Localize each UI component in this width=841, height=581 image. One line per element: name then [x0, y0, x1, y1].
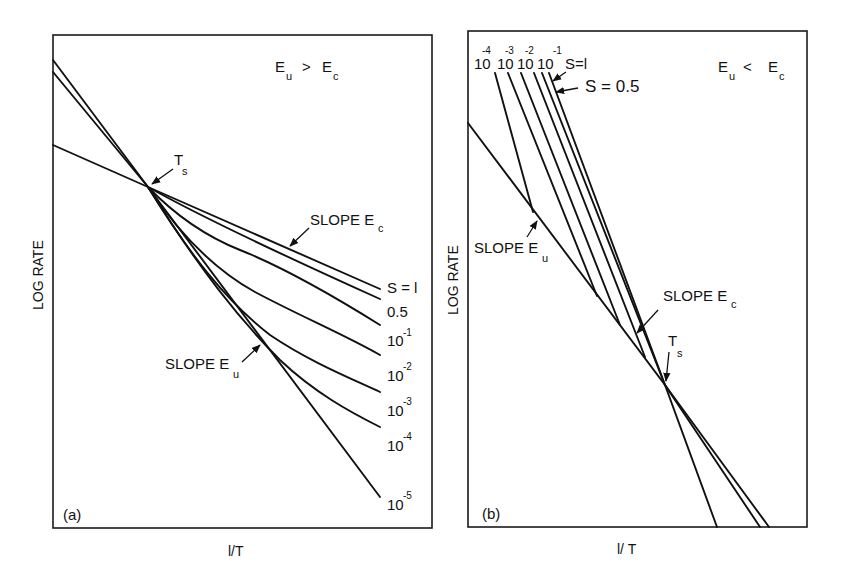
svg-text:-3: -3	[505, 45, 514, 56]
svg-text:10: 10	[474, 55, 491, 72]
svg-text:<: <	[743, 58, 752, 75]
panel-a-curve-labels: S = l 0.5 10 -1 10 -2 10 -3 10 -4 10 -5	[387, 279, 417, 513]
svg-text:u: u	[542, 252, 548, 264]
svg-text:E: E	[322, 58, 332, 75]
svg-text:SLOPE E: SLOPE E	[474, 239, 538, 256]
svg-text:E: E	[718, 58, 728, 75]
svg-text:u: u	[233, 368, 239, 380]
arrow-icon	[152, 169, 173, 184]
svg-text:S = l: S = l	[387, 279, 417, 296]
svg-text:-4: -4	[403, 431, 412, 442]
panel-b-line-s1e-1	[534, 73, 645, 357]
svg-text:10: 10	[497, 55, 514, 72]
panel-a-line-s1e-5	[148, 187, 380, 497]
panel-b-xlabel: l/ T	[617, 541, 637, 557]
svg-text:10: 10	[537, 55, 554, 72]
svg-text:SLOPE E: SLOPE E	[165, 355, 229, 372]
arrow-icon	[290, 228, 309, 246]
panel-b-ts-annotation: T s	[666, 332, 683, 381]
arrow-icon	[242, 345, 260, 362]
svg-text:-1: -1	[553, 45, 562, 56]
panel-a-ts-annotation: T s	[152, 151, 188, 184]
svg-text:SLOPE E: SLOPE E	[310, 211, 374, 228]
panel-a-line-upper-1	[53, 60, 148, 187]
panel-a-ylabel: LOG RATE	[30, 240, 46, 310]
svg-text:s: s	[677, 347, 683, 359]
panel-b-line-s1e-3	[508, 73, 597, 296]
svg-text:10: 10	[387, 332, 404, 349]
panel-b-frame	[468, 31, 807, 527]
panel-b-line-s1	[549, 73, 665, 385]
svg-text:10: 10	[387, 367, 404, 384]
svg-text:T: T	[668, 332, 677, 349]
panel-b-slope-ec: SLOPE E c	[637, 287, 737, 333]
arrow-icon	[527, 221, 537, 237]
svg-text:u: u	[286, 70, 292, 82]
svg-text:S = 0.5: S = 0.5	[585, 77, 639, 96]
panel-a-condition: E u > E c	[275, 58, 339, 82]
panel-b-line-s1-lower	[665, 385, 769, 527]
panel-a-xlabel: l/T	[228, 543, 244, 559]
svg-text:c: c	[779, 70, 785, 82]
svg-text:c: c	[731, 298, 737, 310]
svg-text:>: >	[302, 58, 311, 75]
panel-b: 10 -4 10 -3 10 -2 10 -1 S=l S = 0.5 E u …	[445, 31, 807, 557]
panel-b-condition: E u < E c	[718, 58, 785, 82]
svg-text:-2: -2	[525, 45, 534, 56]
arrow-icon	[556, 88, 578, 92]
panel-a-line-s1e-1	[148, 187, 380, 325]
svg-text:-2: -2	[403, 361, 412, 372]
panel-b-line-s1e-2	[521, 73, 620, 325]
svg-text:-5: -5	[403, 490, 412, 501]
panel-a-line-s05	[148, 187, 380, 299]
svg-text:10: 10	[387, 402, 404, 419]
panel-b-line-eu	[468, 123, 717, 527]
svg-text:c: c	[378, 222, 384, 234]
svg-text:S=l: S=l	[565, 55, 587, 72]
panel-b-tag: (b)	[482, 505, 500, 522]
svg-text:s: s	[182, 165, 188, 177]
panel-a-slope-ec: SLOPE E c	[290, 211, 384, 246]
svg-text:SLOPE E: SLOPE E	[663, 287, 727, 304]
svg-text:-3: -3	[403, 396, 412, 407]
svg-text:-4: -4	[482, 45, 491, 56]
svg-text:0.5: 0.5	[387, 303, 408, 320]
figure-canvas: E u > E c T s SLOPE E c SLOPE E u S = l …	[0, 0, 841, 581]
panel-b-slope-eu: SLOPE E u	[474, 221, 548, 264]
svg-text:u: u	[729, 70, 735, 82]
svg-text:10: 10	[517, 55, 534, 72]
svg-text:c: c	[333, 70, 339, 82]
panel-a-line-upper-2	[53, 72, 148, 187]
panel-b-ylabel: LOG RATE	[445, 245, 461, 315]
svg-text:E: E	[768, 58, 778, 75]
panel-a-frame	[53, 35, 432, 528]
panel-a-slope-eu: SLOPE E u	[165, 345, 260, 380]
svg-text:10: 10	[387, 437, 404, 454]
arrow-icon	[666, 352, 669, 381]
svg-text:10: 10	[387, 496, 404, 513]
svg-text:-1: -1	[403, 327, 412, 338]
panel-a: E u > E c T s SLOPE E c SLOPE E u S = l …	[30, 35, 432, 559]
svg-text:E: E	[275, 58, 285, 75]
panel-a-tag: (a)	[63, 506, 81, 523]
arrow-icon	[553, 72, 566, 81]
panel-b-line-s1e-4	[495, 73, 533, 212]
